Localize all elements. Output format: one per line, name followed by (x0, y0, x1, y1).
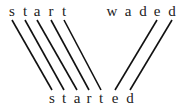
started-letter: e (112, 91, 119, 106)
waded-letter: e (154, 4, 161, 19)
waded-letter: d (139, 4, 147, 19)
alignment-diagram: start waded started (0, 0, 184, 109)
start-letter: s (9, 4, 15, 19)
started-letter: a (74, 91, 81, 106)
waded-letter: w (107, 4, 118, 19)
start-letter: t (23, 4, 27, 19)
start-letter: a (34, 4, 41, 19)
started-letter: t (99, 91, 103, 106)
start-letter: t (62, 4, 66, 19)
started-letter: t (62, 91, 66, 106)
started-letter: r (87, 91, 92, 106)
started-letter: d (126, 91, 134, 106)
start-letter: r (49, 4, 54, 19)
waded-letter: a (125, 4, 132, 19)
started-letter: s (49, 91, 55, 106)
alignment-link (25, 20, 64, 90)
waded-letter: d (168, 4, 176, 19)
alignment-link (12, 20, 52, 90)
